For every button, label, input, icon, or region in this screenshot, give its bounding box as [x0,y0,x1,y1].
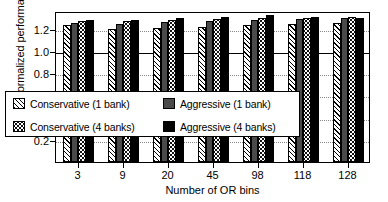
x-tick-mark [303,163,304,168]
x-tick-label: 45 [206,169,218,181]
legend-label: Conservative (1 bank) [30,98,130,110]
chart-legend: Conservative (1 bank)Aggressive (1 bank)… [5,91,300,137]
y-tick-mark [50,30,55,31]
x-tick-mark [168,163,169,168]
x-tick-label: 3 [74,169,80,181]
y-tick-mark [50,141,55,142]
x-tick-label: 128 [338,169,356,181]
bar [333,23,341,162]
legend-item: Conservative (4 banks) [6,121,156,133]
bar-series-container [56,13,369,162]
bar [303,18,311,162]
legend-swatch-icon [13,98,25,109]
x-tick-mark [348,163,349,168]
bar-group [243,13,273,162]
bar [311,17,319,162]
legend-label: Conservative (4 banks) [30,121,135,133]
y-tick-label: 1.2 [17,24,49,36]
legend-item: Aggressive (1 bank) [156,98,301,110]
legend-item: Conservative (1 bank) [6,98,156,110]
x-tick-mark [78,163,79,168]
y-tick-label: 0.8 [17,68,49,80]
x-tick-mark [258,163,259,168]
x-axis-title: Number of OR bins [55,184,370,196]
bar [266,15,274,162]
x-tick-mark [213,163,214,168]
legend-swatch-icon [163,98,175,109]
bar-group [333,13,363,162]
y-tick-mark [50,74,55,75]
y-tick-label: 1.0 [17,46,49,58]
bar [176,18,184,162]
x-tick-label: 118 [294,169,312,181]
bar [221,17,229,162]
y-tick-mark [50,52,55,53]
bar-group [198,13,228,162]
bar [341,18,349,162]
bar [258,18,266,162]
x-tick-mark [123,163,124,168]
bar [356,18,364,162]
legend-swatch-icon [163,121,175,132]
bar-group [108,13,138,162]
legend-swatch-icon [13,121,25,132]
x-tick-label: 20 [161,169,173,181]
bar-group [153,13,183,162]
legend-item: Aggressive (4 banks) [156,121,301,133]
bar-group [63,13,93,162]
x-tick-label: 98 [251,169,263,181]
bar-group [288,13,318,162]
legend-label: Aggressive (1 bank) [180,98,271,110]
bar-chart-figure: Normalized performance 0.20.40.60.81.01.… [0,0,388,202]
plot-area [55,12,370,163]
x-tick-label: 9 [119,169,125,181]
bar [348,17,356,162]
legend-label: Aggressive (4 banks) [180,121,276,133]
